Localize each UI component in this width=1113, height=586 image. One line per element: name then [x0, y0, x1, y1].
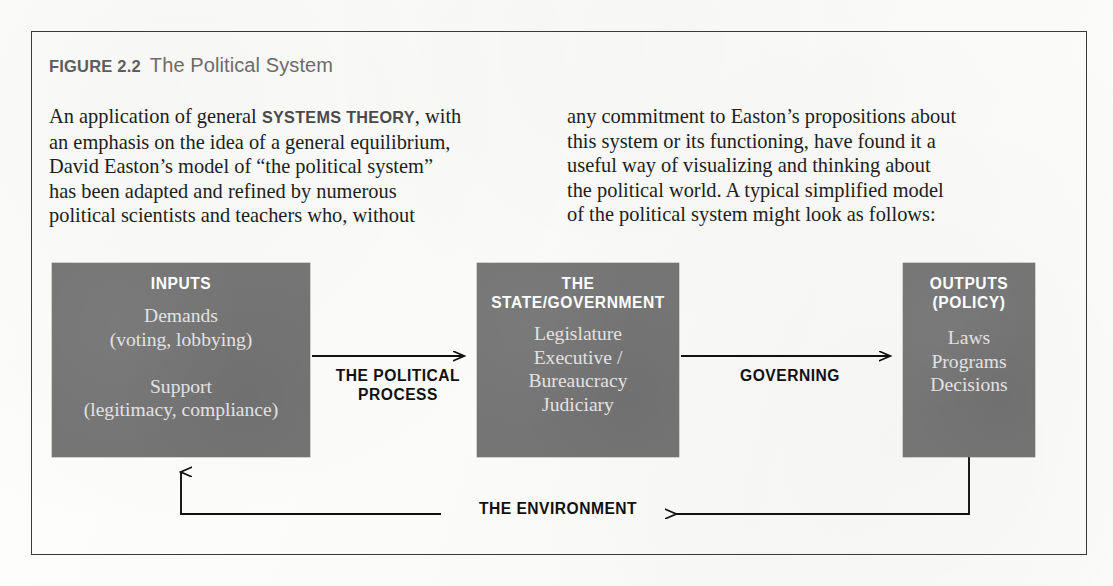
box-outputs-heading: OUTPUTS (POLICY) [903, 274, 1035, 312]
box-state-heading: THE STATE/GOVERNMENT [477, 274, 679, 312]
box-outputs-body: Laws Programs Decisions [903, 326, 1035, 397]
diagram-box-inputs: INPUTS Demands (voting, lobbying) Suppor… [52, 263, 310, 457]
body-left-part1: An application of general [49, 105, 262, 127]
figure-number: FIGURE 2.2 [49, 57, 141, 75]
box-state-body: Legislature Executive / Bureaucracy Judi… [477, 322, 679, 416]
arrow-label-governing: GOVERNING [700, 367, 880, 386]
figure-caption: FIGURE 2.2The Political System [49, 54, 333, 77]
diagram-box-state-government: THE STATE/GOVERNMENT Legislature Executi… [477, 263, 679, 457]
body-column-right: any commitment to Easton’s propositions … [567, 104, 1037, 227]
arrow-label-environment: THE ENVIRONMENT [450, 500, 666, 519]
box-inputs-body: Demands (voting, lobbying) Support (legi… [52, 304, 310, 422]
systems-theory-keyword: SYSTEMS THEORY [262, 108, 415, 126]
diagram-box-outputs: OUTPUTS (POLICY) Laws Programs Decisions [903, 263, 1035, 457]
arrow-label-political-process: THE POLITICAL PROCESS [318, 367, 478, 404]
page-title: The Political System [150, 54, 333, 76]
body-column-left: An application of general SYSTEMS THEORY… [49, 104, 519, 228]
box-inputs-heading: INPUTS [52, 274, 310, 293]
